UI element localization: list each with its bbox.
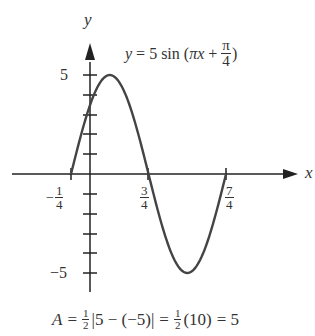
numerator: 1 bbox=[55, 184, 64, 198]
eq-fn: sin bbox=[161, 45, 180, 63]
fraction: 34 bbox=[140, 184, 149, 211]
denominator: 2 bbox=[175, 320, 181, 331]
eq-fraction: π4 bbox=[221, 38, 231, 69]
x-tick-label-neg-quarter: − 14 bbox=[46, 184, 63, 211]
x-axis-label: x bbox=[305, 163, 313, 183]
x-tick-label-three-quarters: 34 bbox=[140, 184, 149, 211]
fraction: 14 bbox=[55, 184, 64, 211]
denominator: 4 bbox=[222, 54, 230, 69]
ann-A: A bbox=[52, 310, 62, 330]
eq-lhs: y bbox=[125, 45, 132, 63]
fraction: 74 bbox=[225, 184, 234, 211]
chart-title-equation: y = 5 sin ( πx + π4 ) bbox=[125, 38, 237, 69]
denominator: 4 bbox=[226, 198, 233, 211]
ann-eq1: = bbox=[67, 310, 77, 330]
ann-eq2: = bbox=[159, 310, 169, 330]
numerator: 7 bbox=[225, 184, 234, 198]
ann-paren: (10) bbox=[183, 310, 211, 330]
ann-abs-expr: |5 − (−5)| bbox=[91, 310, 154, 330]
eq-paren-close: ) bbox=[232, 45, 237, 63]
numerator: π bbox=[221, 38, 231, 54]
eq-coef: 5 bbox=[149, 45, 157, 63]
ann-eq3: = 5 bbox=[217, 310, 239, 330]
denominator: 4 bbox=[141, 198, 148, 211]
y-axis-label: y bbox=[84, 10, 92, 30]
ann-half-2: 12 bbox=[174, 308, 182, 331]
denominator: 4 bbox=[56, 198, 63, 211]
x-axis-arrow-icon bbox=[283, 169, 298, 179]
ann-half-1: 12 bbox=[82, 308, 90, 331]
eq-var: πx bbox=[189, 45, 204, 63]
numerator: 3 bbox=[140, 184, 149, 198]
denominator: 2 bbox=[83, 320, 89, 331]
y-tick-label-5: 5 bbox=[60, 66, 68, 84]
eq-equals: = bbox=[136, 45, 145, 63]
y-axis-arrow-icon bbox=[85, 43, 95, 60]
amplitude-annotation: A = 12 |5 − (−5)| = 12 (10) = 5 bbox=[52, 308, 239, 331]
eq-plus: + bbox=[208, 45, 217, 63]
y-tick-label-neg5: −5 bbox=[50, 264, 67, 282]
minus-sign: − bbox=[46, 190, 54, 206]
x-tick-label-seven-quarters: 74 bbox=[225, 184, 234, 211]
